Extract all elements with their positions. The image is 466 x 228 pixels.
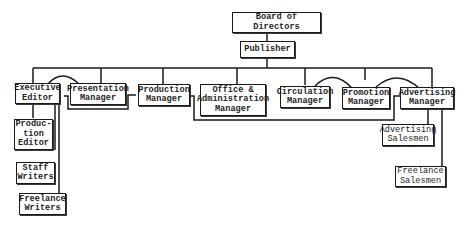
node-production-editor: Produc- tion Editor — [14, 119, 53, 150]
node-executive-editor: Executive Editor — [15, 83, 60, 104]
node-freelance-salesmen: Freelance Salesmen — [395, 166, 446, 187]
org-chart: Board of Directors Publisher Executive E… — [0, 0, 466, 228]
node-circulation-manager: Circulation Manager — [280, 86, 330, 108]
node-office-administration-manager: Office & Administration Manager — [200, 84, 266, 116]
node-board-of-directors: Board of Directors — [232, 12, 321, 33]
node-advertising-salesmen: Advertising Salesmen — [382, 124, 434, 146]
node-freelance-writers: Freelance Writers — [19, 193, 66, 215]
node-advertising-manager: Advertising Manager — [400, 87, 454, 109]
node-production-manager: Production Manager — [138, 84, 190, 106]
node-publisher: Publisher — [240, 41, 295, 58]
node-promotion-manager: Promotion Manager — [342, 87, 390, 109]
node-staff-writers: Staff Writers — [16, 162, 55, 184]
node-presentation-manager: Presentation Manager — [70, 83, 126, 105]
